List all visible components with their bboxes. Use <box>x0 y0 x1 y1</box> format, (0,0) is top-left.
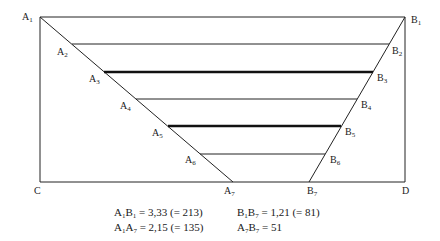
measure-a7b7-value: = 51 <box>262 221 282 233</box>
measure-a1a7-value: = 2,15 (= 135) <box>140 221 204 233</box>
label-a5: A5 <box>152 127 163 140</box>
measure-a1b1-value: = 3,33 (= 213) <box>139 206 203 218</box>
label-a1: A1 <box>22 11 33 24</box>
measure-b1b7-value: = 1,21 (= 81) <box>261 206 319 218</box>
label-b7: B7 <box>307 185 318 198</box>
measure-a1a7-label: A1A7 <box>114 221 137 233</box>
caption-line-2: A1A7 = 2,15 (= 135) <box>114 221 203 235</box>
geometry-diagram: A1 B1 C D A2 A3 A4 A5 A6 A7 B2 B3 B4 B5 … <box>0 0 440 241</box>
measure-b1b7-label: B1B7 <box>237 206 259 218</box>
caption-line-2b: A7B7 = 51 <box>237 221 282 235</box>
label-b6: B6 <box>330 154 341 167</box>
label-b5: B5 <box>345 126 356 139</box>
label-b3: B3 <box>377 72 388 85</box>
caption-line-1b: B1B7 = 1,21 (= 81) <box>237 206 320 220</box>
label-a7: A7 <box>224 185 235 198</box>
label-d: D <box>402 185 409 196</box>
caption-line-1: A1B1 = 3,33 (= 213) <box>114 206 203 220</box>
measure-a7b7-label: A7B7 <box>237 221 259 233</box>
measure-a1b1-label: A1B1 <box>114 206 136 218</box>
label-a4: A4 <box>120 100 131 113</box>
label-c: C <box>34 185 41 196</box>
label-a3: A3 <box>89 73 100 86</box>
label-a2: A2 <box>57 46 68 59</box>
label-a6: A6 <box>185 154 196 167</box>
label-b1: B1 <box>411 14 422 27</box>
label-b2: B2 <box>392 45 403 58</box>
label-b4: B4 <box>361 99 372 112</box>
